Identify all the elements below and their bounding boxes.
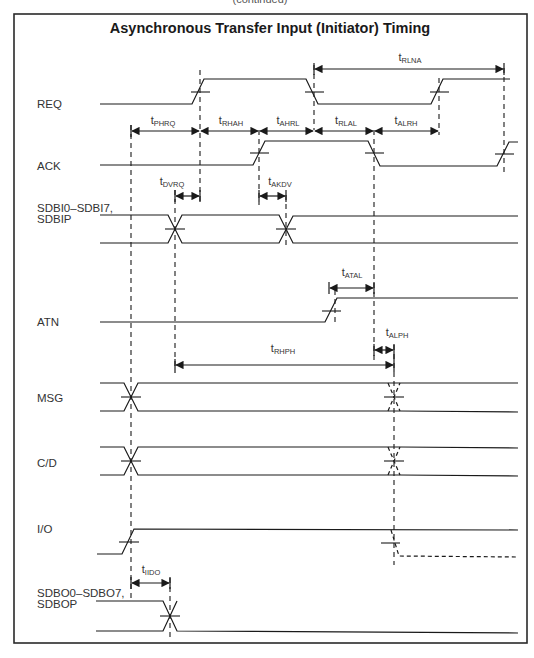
- signal-label-msg: MSG: [37, 392, 63, 404]
- signal-label-ack: ACK: [37, 160, 61, 172]
- timing-iido: tIIDO: [131, 563, 170, 589]
- label-atal: tATAL: [342, 266, 363, 280]
- label-rhah: tRHAH: [219, 114, 243, 128]
- label-dvrq: tDVRQ: [160, 175, 185, 189]
- signal-label-req: REQ: [37, 98, 62, 110]
- signal-sdbo: SDBO0–SDBO7, SDBOP: [37, 587, 518, 633]
- cut-off-caption: (continued): [232, 0, 287, 5]
- signal-io: I/O: [37, 523, 518, 557]
- signal-cd: C/D: [37, 447, 518, 476]
- timing-dvrq-akdv: tDVRQ tAKDV: [160, 175, 292, 202]
- label-alrh: tALRH: [394, 114, 417, 128]
- label-ahrl: tAHRL: [276, 114, 299, 128]
- timing-atal: tATAL: [329, 266, 374, 294]
- signal-atn: ATN: [37, 298, 518, 328]
- signal-ack: ACK: [37, 141, 518, 172]
- label-iido: tIIDO: [142, 563, 161, 577]
- timing-rlna: tRLNA: [314, 51, 504, 75]
- timing-diagram: (continued) Asynchronous Transfer Input …: [0, 0, 534, 658]
- signal-sdbi: SDBI0–SDBI7, SDBIP: [37, 202, 518, 243]
- label-akdv: tAKDV: [268, 175, 292, 189]
- signal-msg: MSG: [37, 383, 518, 412]
- timing-row-req-ack: tPHRQ tRHAH tAHRL tRLAL tALRH: [131, 114, 438, 137]
- label-rlal: tRLAL: [335, 114, 357, 128]
- label-phrq: tPHRQ: [151, 114, 176, 128]
- signal-label-sdbip: SDBIP: [37, 213, 72, 225]
- svg-text:tRLNA: tRLNA: [398, 51, 421, 65]
- signal-label-io: I/O: [37, 523, 52, 535]
- signal-label-sdbop: SDBOP: [37, 598, 78, 610]
- label-alph: tALPH: [386, 326, 409, 340]
- label-rhph: tRHPH: [271, 342, 295, 356]
- timing-alph-rhph: tALPH tRHPH: [175, 326, 408, 373]
- signal-label-cd: C/D: [37, 457, 57, 469]
- diagram-frame: [14, 14, 527, 643]
- diagram-title: Asynchronous Transfer Input (Initiator) …: [110, 20, 430, 36]
- signal-label-atn: ATN: [37, 316, 59, 328]
- guide-lines: [131, 65, 504, 640]
